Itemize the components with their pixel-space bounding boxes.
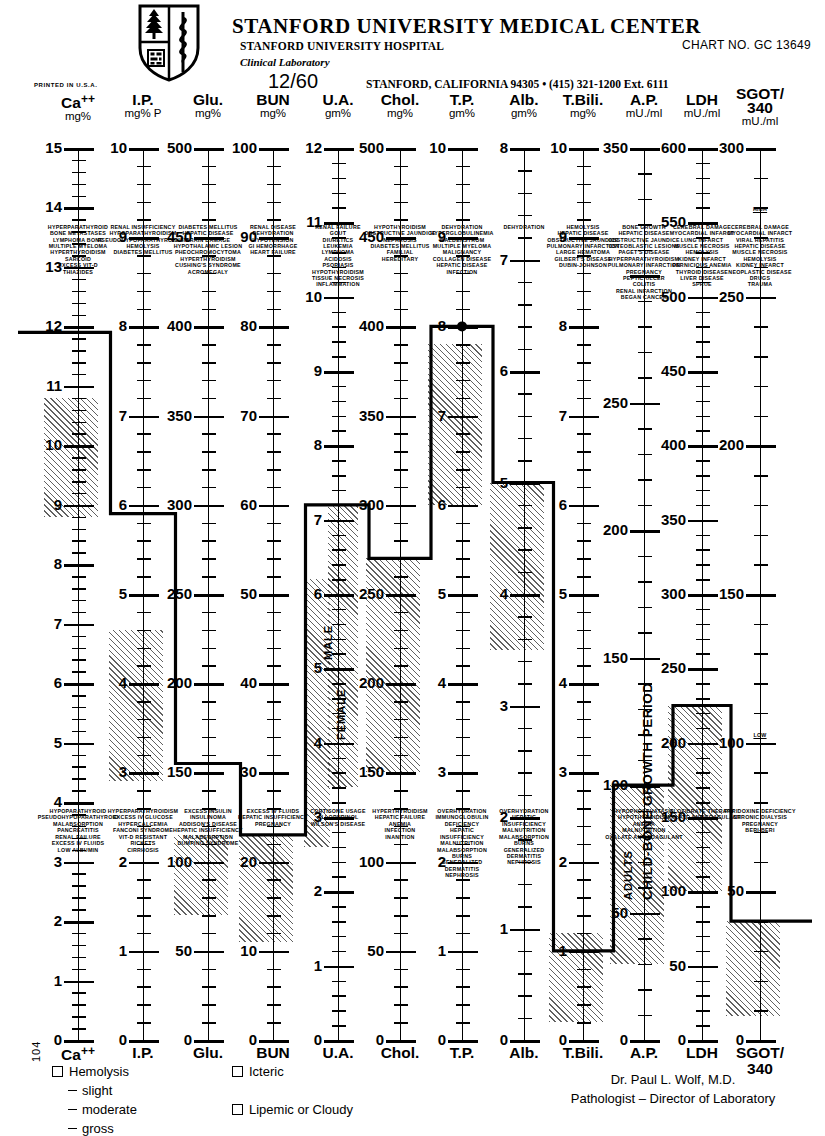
department-subtitle: Clinical Laboratory bbox=[240, 56, 330, 68]
axis-tick bbox=[394, 540, 408, 542]
chart-number: CHART NO. GC 13649 bbox=[682, 38, 811, 52]
axis-tick bbox=[696, 490, 710, 492]
vertical-label-child-bone-growth-period: CHILD-BONE GROWTH PERIOD bbox=[640, 683, 655, 901]
normal-range-band bbox=[109, 630, 163, 782]
axis-tick bbox=[394, 362, 408, 364]
axis-tick bbox=[696, 207, 710, 209]
axis-tick bbox=[72, 933, 86, 935]
axis-tick bbox=[332, 936, 346, 938]
axis-tick-label: 50 bbox=[640, 957, 686, 974]
normal-range-band bbox=[174, 835, 228, 915]
axis-tick bbox=[518, 193, 532, 195]
axis-tick bbox=[696, 995, 710, 997]
axis-tick bbox=[569, 683, 599, 686]
axis-tick bbox=[267, 612, 281, 614]
axis-tick-label: 500 bbox=[146, 139, 192, 156]
axis-tick bbox=[332, 1010, 346, 1012]
legend-item-lipemic-or-cloudy[interactable]: Lipemic or Cloudy bbox=[232, 1102, 353, 1117]
axis-tick bbox=[332, 163, 346, 165]
axis-tick-label: 6 bbox=[81, 496, 127, 513]
axis-tick bbox=[137, 380, 151, 382]
axis-tick bbox=[267, 1004, 281, 1006]
axis-tick-label: 7 bbox=[462, 251, 508, 268]
legend-item-moderate[interactable]: moderate bbox=[68, 1102, 137, 1117]
axis-tick-label: 50 bbox=[338, 942, 384, 959]
legend-item-hemolysis[interactable]: Hemolysis bbox=[52, 1064, 129, 1079]
axis-tick bbox=[569, 505, 599, 508]
axis-tick bbox=[137, 273, 151, 275]
axis-tick-label: 2 bbox=[521, 853, 567, 870]
axis-tick-label: 400 bbox=[640, 436, 686, 453]
axis-tick bbox=[696, 341, 710, 343]
low-annotations: PYRIDOXINE DEFICIENCYCHRONIC DIALYSISPRE… bbox=[704, 808, 816, 834]
axis-tick bbox=[577, 612, 591, 614]
annotation-line: INFECTION bbox=[406, 269, 518, 275]
axis-tick bbox=[456, 897, 470, 899]
axis-tick bbox=[577, 630, 591, 632]
axis-tick bbox=[577, 487, 591, 489]
axis-tick bbox=[510, 929, 540, 932]
axis-tick-label: 6 bbox=[462, 362, 508, 379]
annotation-line: INFLAMMATION bbox=[282, 281, 394, 287]
axis-tick bbox=[638, 454, 652, 456]
axis-tick bbox=[638, 326, 652, 328]
axis-tick bbox=[332, 430, 346, 432]
axis-tick bbox=[754, 564, 768, 566]
axis-tick bbox=[332, 847, 346, 849]
axis-tick-label: 3 bbox=[521, 763, 567, 780]
checkbox-icon[interactable] bbox=[232, 1066, 243, 1077]
axis-tick bbox=[64, 207, 94, 210]
axis-tick bbox=[638, 581, 652, 583]
axis-tick bbox=[638, 1015, 652, 1017]
axis-tick bbox=[696, 505, 710, 507]
axis-tick-label: 10 bbox=[276, 288, 322, 305]
form-side-number: 104 bbox=[30, 1041, 42, 1062]
axis-tick bbox=[202, 1022, 216, 1024]
checkbox-icon[interactable] bbox=[52, 1066, 63, 1077]
axis-tick bbox=[577, 166, 591, 168]
column-units: mU./ml bbox=[715, 115, 805, 128]
axis-tick-label: 250 bbox=[582, 394, 628, 411]
legend-item-slight[interactable]: slight bbox=[68, 1083, 112, 1098]
dash-icon bbox=[68, 1128, 77, 1129]
axis-tick bbox=[267, 719, 281, 721]
axis-tick bbox=[202, 219, 216, 221]
axis-tick bbox=[456, 737, 470, 739]
axis-tick bbox=[72, 695, 86, 697]
axis-tick bbox=[137, 166, 151, 168]
axis-tick bbox=[72, 719, 86, 721]
normal-range-band-female bbox=[304, 579, 330, 847]
axis-tick bbox=[202, 558, 216, 560]
legend-item-icteric[interactable]: Icteric bbox=[232, 1064, 284, 1079]
axis-tick bbox=[577, 558, 591, 560]
axis-tick bbox=[518, 973, 532, 975]
axis-tick bbox=[394, 1004, 408, 1006]
axis-tick-label: 12 bbox=[276, 139, 322, 156]
axis-tick bbox=[202, 737, 216, 739]
axis-tick bbox=[267, 380, 281, 382]
axis-tick bbox=[267, 398, 281, 400]
axis-tick bbox=[137, 433, 151, 435]
axis-tick bbox=[202, 665, 216, 667]
axis-tick-label: 2 bbox=[16, 912, 62, 929]
axis-tick bbox=[202, 719, 216, 721]
checkbox-icon[interactable] bbox=[232, 1104, 243, 1115]
axis-tick-label: 200 bbox=[582, 521, 628, 538]
page-title: STANFORD UNIVERSITY MEDICAL CENTER bbox=[232, 14, 701, 39]
axis-tick bbox=[518, 460, 532, 462]
printed-in-usa-note: PRINTED IN U.S.A. bbox=[34, 82, 98, 88]
axis-tick bbox=[72, 576, 86, 578]
axis-tick bbox=[137, 915, 151, 917]
axis-tick bbox=[456, 630, 470, 632]
legend-item-gross[interactable]: gross bbox=[68, 1121, 114, 1136]
axis-tick bbox=[72, 659, 86, 661]
axis-tick bbox=[72, 612, 86, 614]
axis-tick bbox=[137, 291, 151, 293]
axis-tick bbox=[518, 393, 532, 395]
axis-tick-label: 100 bbox=[211, 139, 257, 156]
axis-tick bbox=[394, 879, 408, 881]
axis-tick bbox=[577, 309, 591, 311]
axis-tick bbox=[72, 909, 86, 911]
axis-tick bbox=[332, 356, 346, 358]
axis-tick bbox=[64, 624, 94, 627]
